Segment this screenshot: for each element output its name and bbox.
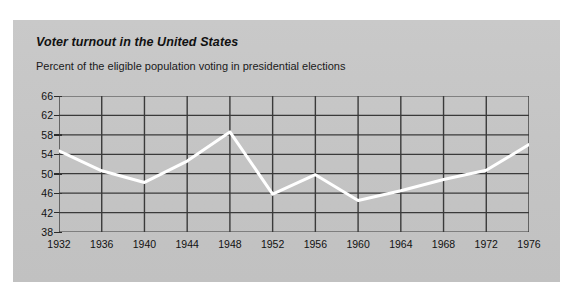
vertical-gridlines [59, 96, 529, 232]
x-tick-label: 1968 [432, 238, 455, 250]
x-tick-label: 1956 [304, 238, 327, 250]
y-tick-label: 66 [23, 90, 53, 102]
data-series-line [59, 132, 529, 200]
y-axis-labels: 6662585450464238 [21, 96, 53, 232]
y-tick-label: 42 [23, 207, 53, 219]
x-tick-label: 1964 [389, 238, 412, 250]
chart-title: Voter turnout in the United States [36, 35, 238, 49]
y-tick-label: 38 [23, 226, 53, 238]
x-tick-label: 1940 [133, 238, 156, 250]
line-chart-svg [59, 96, 529, 232]
x-axis-labels: 1932193619401944194819521956196019641968… [59, 238, 529, 254]
x-tick-label: 1952 [261, 238, 284, 250]
y-tick-label: 50 [23, 168, 53, 180]
x-tick-label: 1976 [517, 238, 540, 250]
chart-card: Voter turnout in the United States Perce… [13, 20, 560, 282]
x-tick-label: 1932 [47, 238, 70, 250]
plot-area [59, 96, 529, 232]
chart-page: Voter turnout in the United States Perce… [0, 0, 574, 296]
x-tick-label: 1972 [475, 238, 498, 250]
y-tick-label: 46 [23, 187, 53, 199]
series-line [59, 132, 529, 200]
plot-region [59, 96, 529, 232]
horizontal-gridlines [59, 96, 529, 232]
y-tick-label: 62 [23, 109, 53, 121]
y-tick-label: 54 [23, 148, 53, 160]
y-tick-label: 58 [23, 129, 53, 141]
x-tick-label: 1960 [346, 238, 369, 250]
chart-subtitle: Percent of the eligible population votin… [36, 60, 345, 72]
x-tick-label: 1948 [218, 238, 241, 250]
x-tick-label: 1936 [90, 238, 113, 250]
x-tick-label: 1944 [175, 238, 198, 250]
